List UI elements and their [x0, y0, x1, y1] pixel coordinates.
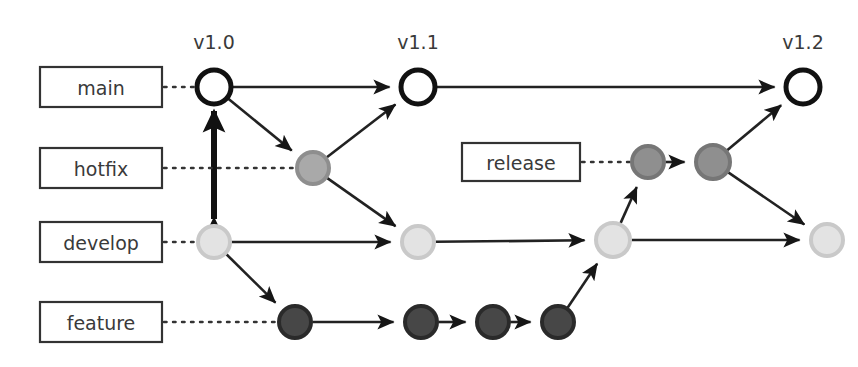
edge-e-main10-hotfix1	[228, 99, 291, 151]
branch-label-text-hotfix: hotfix	[74, 158, 128, 180]
commit-node-develop-4[interactable]	[811, 224, 843, 256]
label-boxes-layer: mainhotfixdevelopfeaturerelease	[40, 67, 580, 342]
branch-label-text-feature: feature	[67, 312, 136, 334]
version-tags-layer: v1.0v1.1v1.2	[193, 31, 823, 53]
edges-layer	[214, 87, 804, 322]
nodes-layer	[197, 70, 843, 338]
commit-node-feature-2[interactable]	[405, 306, 437, 338]
commit-node-feature-1[interactable]	[279, 306, 311, 338]
commit-node-release-2[interactable]	[696, 145, 730, 179]
edge-e-develop2-develop3	[435, 240, 584, 242]
edge-e-develop3-release1	[621, 187, 637, 223]
branch-label-main[interactable]: main	[40, 67, 162, 107]
git-branching-diagram: mainhotfixdevelopfeaturerelease v1.0v1.1…	[0, 0, 858, 367]
commit-node-main-v11[interactable]	[401, 70, 435, 104]
edge-e-hotfix1-develop2	[327, 178, 395, 226]
label-connectors-layer	[164, 87, 636, 322]
edge-e-hotfix1-main11	[327, 104, 396, 157]
version-tag-v10: v1.0	[193, 31, 234, 53]
branch-label-feature[interactable]: feature	[40, 302, 162, 342]
edge-e-feature4-develop3	[568, 264, 597, 308]
commit-node-develop-1[interactable]	[198, 226, 230, 258]
commit-node-develop-2[interactable]	[402, 226, 434, 258]
branch-label-text-release: release	[486, 152, 555, 174]
git-graph-canvas: mainhotfixdevelopfeaturerelease v1.0v1.1…	[0, 0, 858, 367]
branch-label-text-main: main	[77, 77, 124, 99]
version-tag-v11: v1.1	[397, 31, 438, 53]
branch-label-hotfix[interactable]: hotfix	[40, 148, 162, 188]
commit-node-feature-4[interactable]	[542, 306, 574, 338]
branch-label-text-develop: develop	[63, 232, 139, 254]
commit-node-feature-3[interactable]	[477, 306, 509, 338]
branch-label-release[interactable]: release	[462, 143, 580, 181]
commit-node-main-v12[interactable]	[786, 70, 820, 104]
version-tag-v12: v1.2	[782, 31, 823, 53]
commit-node-develop-3[interactable]	[596, 223, 630, 257]
commit-node-release-1[interactable]	[632, 146, 664, 178]
edge-e-develop1-feature1	[226, 254, 275, 302]
commit-node-main-v10[interactable]	[197, 70, 231, 104]
edge-e-release2-develop4	[728, 172, 804, 224]
branch-label-develop[interactable]: develop	[40, 222, 162, 262]
commit-node-hotfix-1[interactable]	[297, 152, 329, 184]
edge-e-release2-main12	[727, 105, 781, 150]
